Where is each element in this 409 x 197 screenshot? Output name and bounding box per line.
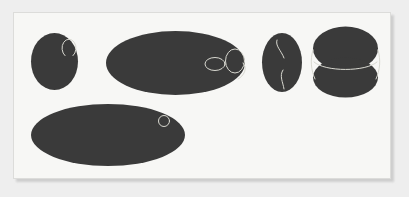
image-panel [13, 12, 391, 179]
image-canvas [0, 0, 409, 197]
